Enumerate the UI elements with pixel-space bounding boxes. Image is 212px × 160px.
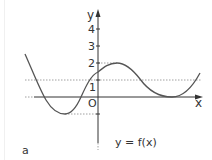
function-label: y = f(x) (115, 136, 157, 149)
y-tick-label-4: 4 (88, 24, 95, 35)
x-axis-label: x (195, 97, 202, 109)
y-tick-label-1: 1 (89, 82, 96, 93)
panel-label: a (22, 144, 29, 157)
graph-canvas (0, 0, 212, 160)
origin-label: O (88, 98, 97, 109)
y-tick-label-3: 3 (88, 41, 95, 52)
y-tick-label-2: 2 (88, 58, 95, 69)
figure-frame: y 4 3 2 1 O x y = f(x) a (0, 0, 212, 160)
function-curve (25, 54, 200, 114)
y-axis-arrow-icon (96, 9, 101, 17)
y-axis-label: y (87, 9, 94, 21)
